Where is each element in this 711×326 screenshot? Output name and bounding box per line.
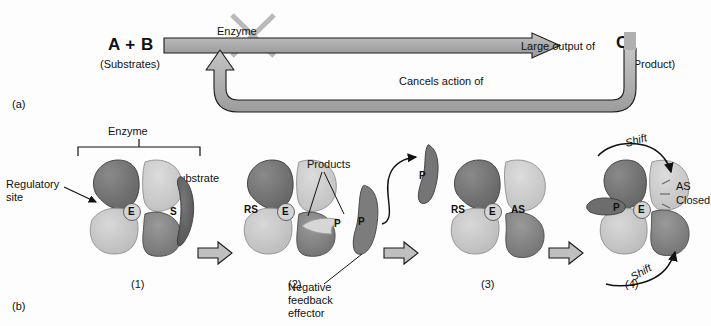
stage-3-label-P-free: P [419, 170, 426, 182]
substrates-caption: (Substrates) [100, 58, 160, 71]
figure-root: Enzyme A + B (Substrates) Large output o… [0, 0, 711, 326]
panel-a-label: (a) [12, 98, 25, 111]
enzyme-bracket-label: Enzyme [108, 125, 148, 138]
stage-1-label-S: S [170, 206, 177, 218]
stage-4-label-E: E [638, 204, 645, 216]
transition-arrow-1 [198, 241, 234, 265]
stage-3-enzyme: RS E AS [443, 152, 555, 266]
as-closed-tick-marks [660, 178, 676, 208]
panel-b: Enzyme Regulatorysite Substrate [0, 118, 711, 326]
stage-4-number: (4) [625, 278, 638, 291]
substrates-symbol: A + B [108, 35, 154, 55]
stage-4-label-P: P [613, 202, 620, 214]
negative-feedback-label: Negativefeedbackeffector [288, 281, 333, 320]
stage-3-label-AS: AS [511, 204, 525, 216]
products-label: Products [307, 158, 350, 171]
stage-3-label-RS: RS [451, 204, 465, 216]
transition-arrow-3 [549, 241, 585, 265]
regulatory-site-label: Regulatorysite [6, 178, 59, 203]
panel-a: Enzyme A + B (Substrates) Large output o… [0, 0, 711, 118]
feedback-label: Cancels action of [399, 75, 483, 88]
stage-1-label-E: E [128, 206, 135, 218]
as-closed-label: ASClosed [676, 180, 710, 208]
stage-3-label-E: E [489, 206, 496, 218]
stage-1-number: (1) [131, 278, 144, 291]
stage-2-label-P-dark: P [358, 216, 365, 228]
stage-2-label-P-light: P [334, 218, 341, 230]
stage-2-label-E: E [282, 206, 289, 218]
stage-2-label-RS: RS [244, 204, 258, 216]
stage-1-enzyme: E S [82, 150, 200, 266]
transition-arrow-2 [384, 241, 420, 265]
panel-b-label: (b) [12, 300, 25, 313]
stage-3-number: (3) [481, 278, 494, 291]
